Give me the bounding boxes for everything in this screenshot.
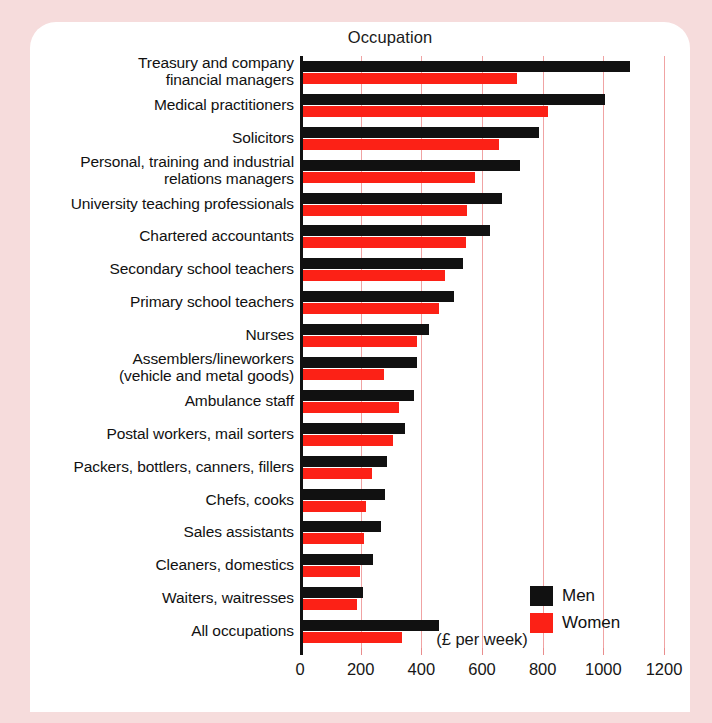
x-axis-tick-label: 800 <box>529 660 557 679</box>
x-axis-tick-label: 600 <box>468 660 496 679</box>
bar-men <box>302 456 387 467</box>
category-label: All occupations <box>191 622 294 639</box>
x-axis-tick <box>603 648 604 655</box>
bar-women <box>302 402 399 413</box>
bar-men <box>302 554 373 565</box>
bar-men <box>302 324 429 335</box>
category-label: Postal workers, mail sorters <box>106 425 294 442</box>
y-axis-line <box>300 56 303 648</box>
category-label: Sales assistants <box>184 523 294 540</box>
x-axis-tick <box>543 648 544 655</box>
bar-men <box>302 587 363 598</box>
legend-label: Women <box>562 613 620 633</box>
bar-women <box>302 270 445 281</box>
bar-men <box>302 258 463 269</box>
x-axis-tick-label: 1200 <box>646 660 683 679</box>
category-label: Chartered accountants <box>139 227 294 244</box>
gridline <box>664 56 665 648</box>
bar-women <box>302 468 372 479</box>
bar-men <box>302 423 405 434</box>
bar-men <box>302 193 502 204</box>
bar-women <box>302 303 439 314</box>
x-axis-tick <box>482 648 483 655</box>
gridline <box>603 56 604 648</box>
bar-women <box>302 533 364 544</box>
category-label: Cleaners, domestics <box>155 556 294 573</box>
category-label: Personal, training and industrial relati… <box>80 153 294 187</box>
chart-page: Occupation 020040060080010001200 (£ per … <box>0 0 712 723</box>
bar-men <box>302 127 539 138</box>
bar-women <box>302 106 548 117</box>
x-axis-tick-label: 200 <box>347 660 375 679</box>
category-label: Packers, bottlers, canners, fillers <box>74 458 294 475</box>
x-axis-tick <box>300 648 303 655</box>
legend-swatch-men <box>530 586 553 606</box>
x-axis-tick-label: 1000 <box>585 660 622 679</box>
category-label: Assemblers/lineworkers (vehicle and meta… <box>119 350 294 384</box>
bar-women <box>302 501 366 512</box>
plot-area: 020040060080010001200 <box>300 56 664 648</box>
bar-women <box>302 566 360 577</box>
chart-title: Occupation <box>300 28 480 47</box>
bar-women <box>302 139 499 150</box>
x-axis-tick <box>421 648 422 655</box>
bar-women <box>302 369 384 380</box>
category-label: Medical practitioners <box>154 96 294 113</box>
category-label: Nurses <box>246 326 295 343</box>
x-axis-tick <box>664 648 665 655</box>
category-label: Solicitors <box>232 129 294 146</box>
bar-women <box>302 435 393 446</box>
bar-women <box>302 237 466 248</box>
category-label: Treasury and company financial managers <box>138 54 294 88</box>
x-axis-tick-label: 0 <box>295 660 304 679</box>
bar-men <box>302 521 381 532</box>
gridline <box>543 56 544 648</box>
legend-item: Women <box>530 609 620 636</box>
bar-men <box>302 357 417 368</box>
category-label: University teaching professionals <box>71 195 294 212</box>
bar-women <box>302 172 475 183</box>
bar-men <box>302 390 414 401</box>
bar-women <box>302 599 357 610</box>
bar-women <box>302 205 467 216</box>
bar-men <box>302 94 605 105</box>
x-axis-tick-label: 400 <box>408 660 436 679</box>
category-label: Primary school teachers <box>130 293 294 310</box>
category-label: Ambulance staff <box>185 392 294 409</box>
bar-men <box>302 291 454 302</box>
bar-men <box>302 61 630 72</box>
legend-label: Men <box>562 586 595 606</box>
bar-men <box>302 225 490 236</box>
bar-men <box>302 489 385 500</box>
chart-legend: MenWomen <box>530 582 620 636</box>
x-axis-tick <box>361 648 362 655</box>
category-label: Chefs, cooks <box>206 491 294 508</box>
legend-item: Men <box>530 582 620 609</box>
category-label: Secondary school teachers <box>110 260 294 277</box>
bar-men <box>302 160 520 171</box>
bar-women <box>302 73 517 84</box>
bar-women <box>302 336 417 347</box>
legend-swatch-women <box>530 613 553 633</box>
category-label: Waiters, waitresses <box>162 589 294 606</box>
